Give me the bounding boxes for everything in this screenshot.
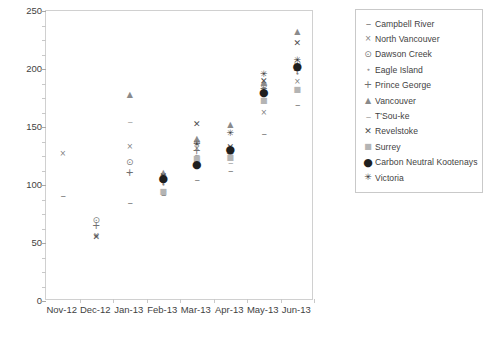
x-tick-mark (147, 299, 148, 303)
y-minor-tick-mark (42, 113, 46, 114)
y-minor-tick-mark (42, 272, 46, 273)
data-point: ● (192, 159, 202, 170)
data-point: ■ (193, 155, 201, 163)
legend-item[interactable]: –Campbell River (361, 16, 478, 31)
data-point: – (61, 190, 66, 201)
data-point: ▲ (227, 121, 233, 129)
data-point: – (195, 174, 200, 185)
data-point: × (260, 109, 267, 117)
legend-label: Campbell River (375, 19, 434, 29)
data-point: – (161, 189, 166, 200)
legend-item[interactable]: –T'Sou-ke (361, 108, 478, 123)
diamond-small-icon: ⬩ (361, 66, 375, 74)
data-point: ✳ (293, 55, 301, 64)
data-point: × (160, 173, 167, 181)
x-tick-label: Jun-13 (282, 304, 311, 315)
data-point: × (294, 78, 301, 86)
y-minor-tick-mark (42, 200, 46, 201)
chart-legend: –Campbell River×North Vancouver⊙Dawson C… (355, 9, 483, 193)
data-point: ⬩ (296, 70, 299, 78)
legend-label: Victoria (375, 173, 404, 183)
data-point: + (293, 66, 301, 76)
data-point: ● (259, 87, 269, 98)
data-point: – (228, 164, 233, 175)
legend-label: Revelstoke (375, 126, 418, 136)
x-tick-mark (214, 299, 215, 303)
legend-item[interactable]: ▲Vancouver (361, 93, 478, 108)
square-light-icon: ■ (361, 143, 375, 151)
data-point: + (193, 146, 201, 156)
legend-label: Carbon Neutral Kootenays (375, 157, 477, 167)
y-tick-label: 100 (14, 179, 42, 190)
x-tick-mark (247, 299, 248, 303)
legend-item[interactable]: ✕Revelstoke (361, 124, 478, 139)
legend-item[interactable]: ×North Vancouver (361, 31, 478, 46)
data-point: ▲ (194, 135, 200, 143)
x-tick-mark (113, 299, 114, 303)
data-point: ✕ (193, 119, 201, 128)
y-tick-mark (41, 69, 46, 70)
y-tick-mark (41, 127, 46, 128)
plot-area: –––––––××××××××⊙⊙⊙⊙⊙⊙⊙⬩⬩⬩⬩⬩⬩+++++++▲▲▲▲▲… (46, 11, 312, 299)
plot-frame: –––––––××××××××⊙⊙⊙⊙⊙⊙⊙⬩⬩⬩⬩⬩⬩+++++++▲▲▲▲▲… (45, 10, 313, 300)
circle-dotted-icon: ⊙ (361, 50, 375, 59)
data-point: × (126, 143, 133, 151)
chart-root: Views (monthly total values) 05010015020… (0, 0, 487, 338)
data-point: ▲ (160, 169, 166, 177)
y-tick-mark (41, 185, 46, 186)
data-point: – (128, 197, 133, 208)
data-point: – (262, 91, 267, 102)
x-tick-mark (180, 299, 181, 303)
x-tick-mark (281, 299, 282, 303)
x-axis-tick-labels: Nov-12Dec-12Jan-13Feb-13Mar-13Apr-13May-… (45, 304, 313, 324)
data-point: ⬩ (229, 149, 232, 157)
legend-item[interactable]: +Prince George (361, 78, 478, 93)
data-point: – (161, 184, 166, 195)
data-point: ⬩ (128, 169, 131, 177)
legend-item[interactable]: ✳Victoria (361, 170, 478, 185)
data-point: ■ (226, 154, 234, 162)
data-point: – (295, 98, 300, 109)
minus-light-icon: – (361, 111, 375, 122)
y-minor-tick-mark (42, 55, 46, 56)
data-point: + (159, 177, 167, 187)
plus-icon: + (361, 80, 375, 90)
data-point: ⊙ (293, 59, 301, 68)
y-axis-tick-labels: 050100150200250 (14, 0, 42, 338)
data-point: ✳ (260, 69, 268, 78)
legend-item[interactable]: ⊙Dawson Creek (361, 47, 478, 62)
legend-item[interactable]: ●Carbon Neutral Kootenays (361, 155, 478, 170)
legend-label: T'Sou-ke (375, 111, 410, 121)
data-point: ● (292, 60, 302, 71)
y-tick-mark (41, 301, 46, 302)
data-point: ⊙ (226, 146, 234, 155)
legend-item[interactable]: ■Surrey (361, 139, 478, 154)
data-point: ■ (159, 188, 167, 196)
data-point: × (193, 145, 200, 153)
data-point: ▲ (294, 28, 300, 36)
dash-icon: – (361, 18, 375, 29)
data-point: ✕ (293, 39, 301, 48)
x-tick-label: Nov-12 (46, 304, 77, 315)
x-tick-label: Apr-13 (215, 304, 244, 315)
legend-label: Dawson Creek (375, 49, 432, 59)
data-point: ✕ (260, 76, 268, 85)
data-point: ✳ (226, 128, 234, 137)
data-point: × (93, 232, 100, 240)
x-bold-icon: ✕ (361, 127, 375, 136)
data-point: ⊙ (126, 157, 134, 166)
data-point: ⊙ (260, 81, 268, 90)
data-point: – (195, 148, 200, 159)
data-point: ⬩ (162, 181, 165, 189)
y-tick-mark (41, 243, 46, 244)
data-point: ■ (293, 86, 301, 94)
y-minor-tick-mark (42, 171, 46, 172)
x-tick-label: May-13 (247, 304, 279, 315)
x-tick-label: Feb-13 (147, 304, 177, 315)
data-point: – (128, 116, 133, 127)
data-point: + (260, 84, 268, 94)
data-point: ⬩ (195, 152, 198, 160)
legend-item[interactable]: ⬩Eagle Island (361, 62, 478, 77)
y-tick-label: 250 (14, 5, 42, 16)
y-tick-label: 50 (14, 237, 42, 248)
